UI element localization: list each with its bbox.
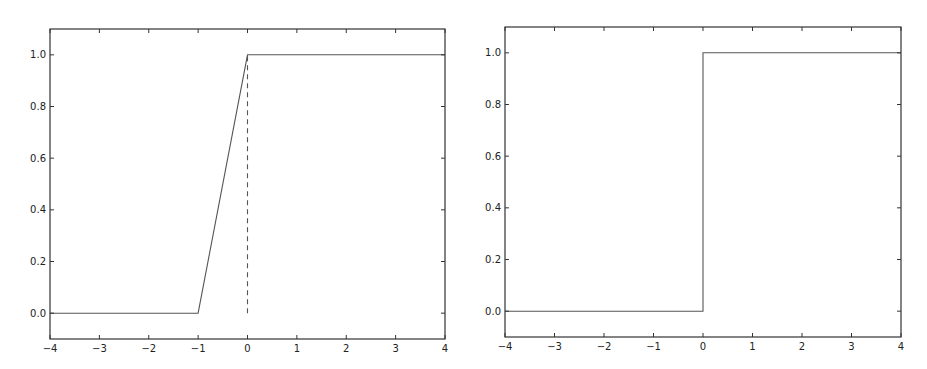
y-tick-label: 0.8: [485, 99, 501, 110]
y-tick-label: 1.0: [485, 47, 501, 58]
x-tick-label: 2: [799, 341, 805, 352]
y-tick-label: 1.0: [30, 49, 46, 60]
y-tick-label: 0.2: [485, 254, 501, 265]
y-tick-label: 0.2: [30, 256, 46, 267]
x-tick-label: −1: [646, 341, 661, 352]
chart-panel-1: −4−3−2−1012340.00.20.40.60.81.0: [30, 29, 448, 354]
y-tick-label: 0.4: [485, 202, 501, 213]
chart-figure: −4−3−2−1012340.00.20.40.60.81.0−4−3−2−10…: [0, 0, 927, 369]
x-tick-label: −4: [43, 343, 58, 354]
x-tick-label: 2: [343, 343, 349, 354]
y-tick-label: 0.6: [485, 151, 501, 162]
chart-panel-2: −4−3−2−1012340.00.20.40.60.81.0: [485, 27, 904, 352]
series-step: [505, 53, 901, 311]
x-tick-label: 1: [749, 341, 755, 352]
x-tick-label: −2: [141, 343, 156, 354]
y-tick-label: 0.4: [30, 204, 46, 215]
x-tick-label: 3: [392, 343, 398, 354]
x-tick-label: −1: [191, 343, 206, 354]
y-tick-label: 0.0: [30, 308, 46, 319]
x-tick-label: −2: [597, 341, 612, 352]
y-tick-label: 0.6: [30, 153, 46, 164]
y-tick-label: 0.8: [30, 101, 46, 112]
x-tick-label: −3: [547, 341, 562, 352]
x-tick-label: 4: [442, 343, 448, 354]
x-tick-label: 1: [294, 343, 300, 354]
x-tick-label: 3: [848, 341, 854, 352]
x-tick-label: −4: [498, 341, 513, 352]
x-tick-label: 0: [700, 341, 706, 352]
x-tick-label: −3: [92, 343, 107, 354]
x-tick-label: 0: [244, 343, 250, 354]
y-tick-label: 0.0: [485, 306, 501, 317]
x-tick-label: 4: [898, 341, 904, 352]
